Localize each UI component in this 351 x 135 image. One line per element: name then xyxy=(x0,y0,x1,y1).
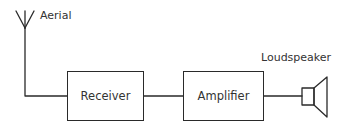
loudspeaker-label: Loudspeaker xyxy=(261,51,331,64)
wire-aerial-to-receiver xyxy=(25,28,67,96)
loudspeaker-icon xyxy=(302,77,327,117)
receiver-label: Receiver xyxy=(81,89,131,103)
aerial-label: Aerial xyxy=(40,9,71,22)
amplifier-block: Amplifier xyxy=(183,71,264,121)
receiver-block: Receiver xyxy=(67,71,144,121)
amplifier-label: Amplifier xyxy=(198,89,250,103)
antenna-icon xyxy=(16,11,34,28)
